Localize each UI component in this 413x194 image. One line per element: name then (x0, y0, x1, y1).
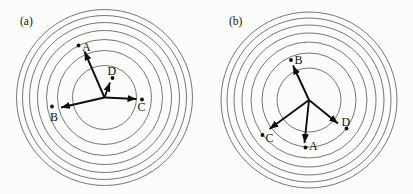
vector-arrow-a-C (105, 98, 137, 100)
panel-b: BCAD(b) (221, 12, 397, 188)
point-label-a-D: D (108, 64, 117, 78)
point-label-b-B: B (295, 53, 303, 67)
point-label-b-D: D (342, 115, 351, 129)
figure-canvas: ABCD(a)BCAD(b) (0, 0, 413, 194)
point-dot-b-B (289, 58, 293, 62)
point-label-a-B: B (50, 110, 58, 124)
point-label-b-C: C (266, 131, 274, 145)
vector-arrow-b-C (270, 100, 310, 129)
panel-label-b: (b) (229, 15, 243, 28)
point-dot-b-A (304, 146, 308, 150)
vector-arrow-a-A (85, 52, 105, 98)
point-label-b-A: A (309, 139, 318, 153)
point-label-a-A: A (82, 40, 91, 54)
figure-equipotential-diagrams: ABCD(a)BCAD(b) (0, 0, 413, 194)
point-dot-a-A (77, 44, 81, 48)
vector-arrow-a-D (105, 83, 111, 98)
point-label-a-C: C (138, 100, 146, 114)
panel-label-a: (a) (20, 15, 33, 28)
vector-arrow-b-A (305, 100, 310, 143)
point-dot-b-C (261, 133, 265, 137)
vector-arrow-b-B (293, 66, 309, 101)
vector-arrow-b-D (309, 100, 338, 124)
panel-a: ABCD(a) (17, 10, 193, 186)
point-dot-a-B (50, 105, 54, 109)
vector-arrow-a-B (61, 98, 105, 108)
